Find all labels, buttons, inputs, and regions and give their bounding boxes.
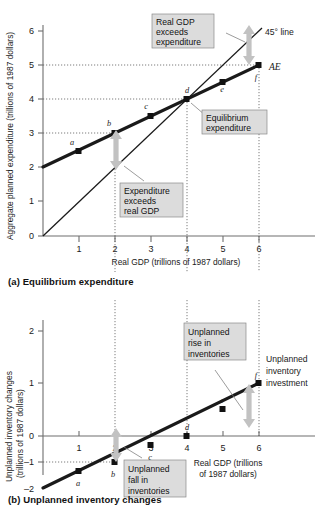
chart-b-ytick-neg1: –1	[24, 457, 34, 467]
note-line-1: Expenditure	[124, 186, 170, 196]
chart-a-ytick-0: 0	[29, 231, 34, 241]
chart-b-xtick-4: 4	[184, 443, 189, 453]
label-line-3: investment	[266, 378, 308, 388]
chart-a-ae-label: AE	[268, 61, 281, 72]
chart-a-ytick-1: 1	[29, 196, 34, 206]
label-line-2: inventory	[266, 366, 302, 376]
note-line-1: Real GDP	[156, 17, 195, 27]
chart-a-point-label-d: d	[185, 86, 190, 95]
chart-b-ytick-1: 1	[29, 378, 34, 388]
chart-a-svg: Aggregate planned expenditure (trillions…	[0, 0, 327, 275]
note-line-1: Unplanned	[128, 464, 170, 474]
chart-b-xtick-6: 6	[256, 443, 261, 453]
chart-b-y-ticks: 2 1 0 –1 –2	[24, 326, 43, 494]
chart-b-point-label-a: a	[76, 479, 80, 488]
note-line-2: expenditure	[206, 123, 251, 133]
chart-b-x-axis-title-line1: Real GDP (trillions	[194, 458, 263, 468]
chart-b-x-axis-title-line2: of 1987 dollars)	[199, 469, 257, 479]
chart-b-svg: Unplanned inventory changes (trillions o…	[0, 300, 327, 515]
chart-b-arrow-unplanned-rise	[243, 384, 255, 428]
chart-a-point-label-c: c	[144, 102, 148, 111]
chart-a-ytick-4: 4	[29, 94, 34, 104]
note-line-1: Unplanned	[188, 327, 230, 337]
chart-b-note-unplanned-rise-in-inventories: Unplanned rise in inventories	[184, 323, 246, 360]
panel-unplanned-inventory-changes: Unplanned inventory changes (trillions o…	[0, 300, 327, 515]
panel-a-caption: (a) Equilibrium expenditure	[8, 276, 134, 287]
chart-b-ytick-0: 0	[29, 431, 34, 441]
note-line-2: exceeds	[156, 27, 188, 37]
chart-a-point-label-f: f	[255, 73, 259, 82]
chart-a-45-line-label: 45° line	[265, 27, 294, 37]
chart-b-point-label-d: d	[185, 423, 190, 432]
chart-b-ytick-2: 2	[29, 326, 34, 336]
chart-b-note-unplanned-fall-in-inventories: Unplanned fall in inventories	[124, 460, 186, 497]
chart-b-leader-unplanned-fall	[124, 447, 142, 458]
chart-a-note-expenditure-exceeds-real-gdp: Expenditure exceeds real GDP	[120, 183, 183, 217]
chart-b-point-label-f: f	[255, 371, 259, 380]
chart-a-point-label-b: b	[107, 119, 111, 128]
chart-a-y-ticks: 6 5 4 3 2 1 0	[29, 26, 43, 241]
chart-a-xtick-3: 3	[148, 244, 153, 254]
chart-a-ytick-5: 5	[29, 60, 34, 70]
chart-b-label-unplanned-inventory-investment: Unplanned inventory investment	[266, 354, 308, 388]
chart-a-xtick-2: 2	[112, 244, 117, 254]
note-line-2: rise in	[188, 338, 211, 348]
chart-b-ytick-neg2: –2	[24, 484, 34, 494]
chart-b-point-label-b: b	[111, 470, 115, 479]
chart-b-xtick-5: 5	[220, 443, 225, 453]
chart-a-x-axis-title: Real GDP (trillions of 1987 dollars)	[112, 257, 241, 267]
note-line-3: real GDP	[124, 206, 160, 216]
note-line-2: exceeds	[124, 196, 156, 206]
label-line-1: Unplanned	[266, 354, 308, 364]
chart-a-xtick-1: 1	[76, 244, 81, 254]
chart-a-ytick-2: 2	[29, 162, 34, 172]
chart-b-point-label-e: e	[220, 396, 224, 405]
chart-a-leader-expenditure-exceeds	[124, 166, 144, 181]
chart-a-point-label-a: a	[70, 138, 74, 147]
chart-a-note-real-gdp-exceeds-expenditure: Real GDP exceeds expenditure	[152, 14, 214, 48]
chart-a-xtick-5: 5	[220, 244, 225, 254]
panel-b-caption: (b) Unplanned inventory changes	[8, 494, 162, 505]
note-line-3: inventories	[188, 349, 230, 359]
chart-a-ytick-3: 3	[29, 128, 34, 138]
chart-a-ytick-6: 6	[29, 26, 34, 36]
note-line-1: Equilibrium	[206, 113, 249, 123]
chart-a-note-equilibrium-expenditure: Equilibrium expenditure	[202, 110, 267, 134]
chart-a-y-axis-title: Aggregate planned expenditure (trillions…	[5, 32, 15, 240]
chart-b-y-axis-title-line1: Unplanned inventory changes	[4, 371, 14, 482]
chart-a-x-ticks: 1 2 3 4 5 6 Real GDP (trillions of 1987 …	[76, 236, 261, 267]
note-line-3: expenditure	[156, 37, 201, 47]
chart-b-xtick-1: 1	[76, 443, 81, 453]
note-line-2: fall in	[128, 475, 148, 485]
chart-a-point-label-e: e	[220, 85, 224, 94]
chart-a-leader-real-gdp-exceeds	[226, 33, 245, 42]
panel-equilibrium-expenditure: Aggregate planned expenditure (trillions…	[0, 0, 327, 275]
